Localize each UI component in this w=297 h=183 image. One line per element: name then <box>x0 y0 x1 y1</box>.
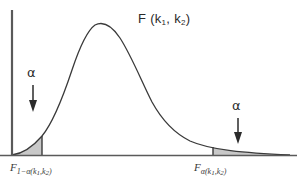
upper-tick-subscript: α(k1,k2) <box>201 167 227 176</box>
chart-title: F (k1, k2) <box>138 12 190 27</box>
upper-tick-sub-suffix: ) <box>224 167 227 176</box>
upper-critical-value-tick-label: Fα(k1,k2) <box>194 162 226 177</box>
f-distribution-figure: F (k1, k2) α α F1−α(k1,k2) Fα(k1,k2) <box>0 0 297 183</box>
lower-critical-value-tick-label: F1−α(k1,k2) <box>10 162 52 177</box>
chart-title-separator: , k <box>166 11 181 26</box>
lower-tick-subscript: 1−α(k1,k2) <box>17 167 52 176</box>
lower-tick-sub-suffix: ) <box>49 167 52 176</box>
alpha-right-arrow-icon <box>234 118 242 144</box>
plot-area <box>0 0 297 183</box>
chart-title-close-paren: ) <box>186 11 191 26</box>
upper-tick-sub-prefix: α(k <box>201 167 211 176</box>
lower-tick-base: F <box>10 161 17 173</box>
chart-title-base: F (k <box>138 11 162 26</box>
f-density-curve <box>12 24 290 155</box>
alpha-left-arrow-icon <box>29 85 37 112</box>
alpha-left-label: α <box>27 66 36 79</box>
lower-tick-sub-prefix: 1−α(k <box>17 167 37 176</box>
alpha-right-label: α <box>232 99 241 112</box>
upper-tick-base: F <box>194 161 201 173</box>
